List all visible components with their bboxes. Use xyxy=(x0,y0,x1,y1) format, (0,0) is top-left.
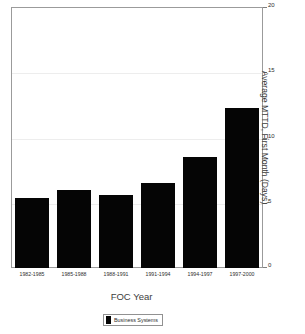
x-tick-label-2: 1985-1988 xyxy=(53,271,95,278)
plot-area xyxy=(11,7,263,268)
x-tick-label-3: 1988-1991 xyxy=(95,271,137,278)
x-tick-label-5: 1994-1997 xyxy=(179,271,221,278)
chart-figure: 20 15 10 5 0 1982-1985 1985-1988 1988-19… xyxy=(0,0,305,334)
x-axis-title: FOC Year xyxy=(0,291,263,303)
legend-label-business-systems: Business Systems xyxy=(114,317,158,324)
chart-legend: Business Systems xyxy=(103,314,163,326)
legend-swatch-business-systems xyxy=(106,316,111,324)
x-tick-label-4: 1991-1994 xyxy=(137,271,179,278)
x-axis: 1982-1985 1985-1988 1988-1991 1991-1994 … xyxy=(11,271,263,285)
x-tick-label-1: 1982-1985 xyxy=(11,271,53,278)
gridline-5 xyxy=(12,204,262,205)
y-axis-title: Average MTTD, First Month (Days) xyxy=(258,7,272,268)
gridline-10 xyxy=(12,139,262,140)
gridline-15 xyxy=(12,73,262,74)
x-tick-label-6: 1997-2000 xyxy=(221,271,263,278)
